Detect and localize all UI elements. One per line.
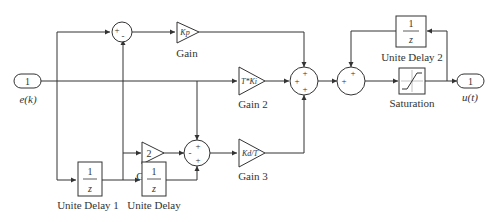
- svg-text:+: +: [195, 155, 200, 165]
- gain2-block[interactable]: T*Ki: [239, 67, 265, 95]
- pid-block-diagram: 1 e(k) 1 u(t) + - Kp Gain T*Ki Gain 2 2 …: [0, 0, 504, 222]
- svg-text:z: z: [151, 183, 156, 194]
- unit-delay2-label: Unite Delay 2: [381, 51, 443, 63]
- sum-main-block[interactable]: + + +: [290, 67, 318, 95]
- gain3-block[interactable]: Kd/T: [239, 139, 265, 167]
- svg-text:1: 1: [25, 76, 30, 87]
- svg-text:+: +: [195, 141, 200, 151]
- svg-text:z: z: [408, 34, 413, 45]
- inport-label: e(k): [19, 93, 36, 106]
- svg-text:+: +: [302, 84, 307, 94]
- unit-delay2-block[interactable]: 1 z: [396, 16, 426, 47]
- gain2-label: Gain 2: [238, 98, 268, 110]
- sum-top-block[interactable]: + -: [112, 22, 132, 42]
- svg-text:1: 1: [409, 18, 414, 29]
- svg-text:+: +: [341, 76, 346, 86]
- svg-text:1: 1: [152, 166, 157, 177]
- unit-delay1-block[interactable]: 1 z: [78, 162, 102, 196]
- unit-delay-label: Unite Delay: [127, 199, 181, 211]
- svg-text:1: 1: [88, 166, 93, 177]
- svg-text:-: -: [122, 31, 125, 41]
- sum-out-block[interactable]: + +: [337, 67, 365, 95]
- inport-block[interactable]: 1: [14, 74, 41, 88]
- outport-block[interactable]: 1: [457, 74, 484, 88]
- wire-gain-to-sum-main: [199, 32, 304, 67]
- gain1-block[interactable]: 2: [142, 142, 164, 164]
- wire-to-delay1: [57, 81, 76, 180]
- unit-delay1-label: Unite Delay 1: [57, 199, 119, 211]
- svg-text:1: 1: [468, 76, 473, 87]
- saturation-label: Saturation: [389, 97, 435, 109]
- svg-text:Kp: Kp: [179, 28, 189, 37]
- gain-label: Gain: [176, 47, 198, 59]
- svg-text:T*Ki: T*Ki: [241, 77, 257, 86]
- unit-delay-block[interactable]: 1 z: [142, 162, 166, 196]
- svg-text:+: +: [114, 25, 119, 35]
- wire-delay-to-sum-mid: [164, 166, 197, 180]
- svg-text:+: +: [350, 68, 355, 78]
- wire-to-sum-top: [57, 32, 110, 81]
- svg-text:2: 2: [147, 148, 152, 159]
- gain-kp-block[interactable]: Kp: [177, 22, 199, 43]
- gain3-label: Gain 3: [238, 170, 268, 182]
- svg-text:+: +: [302, 68, 307, 78]
- outport-label: u(t): [462, 91, 478, 104]
- saturation-block[interactable]: [399, 68, 425, 94]
- svg-text:Kd/T: Kd/T: [241, 149, 259, 158]
- svg-text:z: z: [87, 183, 92, 194]
- wire-gain3-to-sum-main: [265, 95, 304, 153]
- svg-text:+: +: [294, 76, 299, 86]
- svg-text:-: -: [189, 148, 192, 158]
- sum-mid-block[interactable]: + - +: [184, 140, 210, 166]
